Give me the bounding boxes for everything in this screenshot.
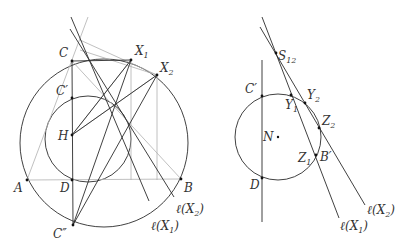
point-D-right: [261, 177, 264, 180]
label-X2: X2: [159, 61, 174, 77]
left-figure: C X1 X2 C′ H A D B C″ ℓ(X1) ℓ(X2): [13, 17, 204, 241]
label-D-right: D: [249, 178, 260, 192]
label-Y2: Y2: [307, 88, 320, 104]
line-l-X2: [70, 29, 174, 197]
altitude-CD: [72, 61, 73, 225]
label-C: C: [59, 46, 68, 60]
label-l-X2: ℓ(X2): [176, 202, 204, 218]
point-C: [71, 60, 74, 63]
label-Z2: Z2: [321, 114, 335, 130]
point-X2: [156, 74, 159, 77]
label-l-X2-right: ℓ(X2): [367, 203, 395, 219]
label-B-prime: B′: [319, 150, 332, 164]
label-C-prime: C′: [56, 84, 68, 98]
point-N: [277, 136, 279, 138]
point-A: [26, 179, 29, 182]
point-D: [71, 179, 74, 182]
label-Y1: Y1: [285, 98, 298, 114]
line-C2-X1: [73, 60, 131, 225]
point-Y1: [290, 94, 293, 97]
label-Z1: Z1: [297, 151, 311, 167]
label-H: H: [57, 129, 69, 143]
label-l-X1: ℓ(X1): [151, 219, 179, 235]
point-Y2: [304, 102, 307, 105]
point-C-prime-right: [261, 95, 264, 98]
label-B: B: [183, 181, 193, 195]
geometry-diagram: C X1 X2 C′ H A D B C″ ℓ(X1) ℓ(X2) S12 C′…: [0, 0, 410, 251]
point-C-prime: [71, 97, 74, 100]
side-AB: [27, 179, 181, 180]
right-figure: S12 C′ Y1 Y2 Z2 N Z1 B′ D ℓ(X1) ℓ(X2): [235, 17, 395, 235]
point-B: [180, 178, 183, 181]
point-X1: [130, 59, 133, 62]
label-l-X1-right: ℓ(X1): [340, 219, 368, 235]
point-C-double-prime: [72, 224, 75, 227]
point-Z1: [315, 154, 318, 157]
label-S12: S12: [278, 49, 296, 65]
label-D: D: [59, 181, 70, 195]
line-X1-H: [72, 60, 131, 135]
line-X2-H: [72, 75, 157, 135]
point-Z2: [318, 127, 321, 130]
label-X1: X1: [134, 44, 149, 60]
point-H: [71, 134, 74, 137]
point-S12: [275, 52, 278, 55]
label-C-prime-right: C′: [245, 82, 257, 96]
label-A: A: [13, 181, 23, 195]
label-N: N: [262, 130, 274, 144]
side-AC: [27, 17, 88, 180]
label-C-double-prime: C″: [53, 227, 67, 241]
